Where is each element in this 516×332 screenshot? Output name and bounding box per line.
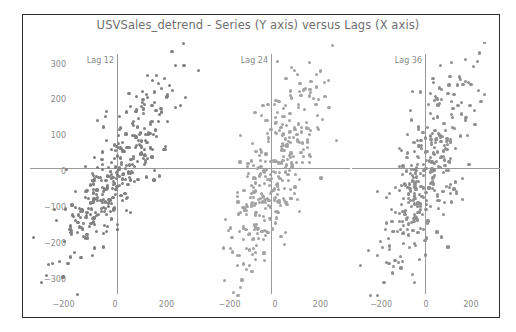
scatter-point [288, 169, 291, 172]
scatter-point [445, 148, 448, 151]
scatter-point [122, 172, 125, 175]
scatter-point [376, 254, 379, 257]
scatter-point [264, 160, 267, 163]
scatter-point [306, 146, 309, 149]
scatter-point [244, 228, 247, 231]
scatter-point [483, 42, 486, 44]
scatter-point [440, 235, 443, 238]
scatter-point [293, 185, 296, 188]
scatter-point [129, 211, 132, 214]
scatter-point [437, 207, 440, 210]
scatter-point [262, 238, 265, 241]
scatter-point [253, 111, 256, 114]
scatter-point [95, 230, 98, 233]
scatter-point [393, 259, 396, 262]
scatter-point [231, 250, 234, 253]
scatter-point [422, 163, 425, 166]
scatter-point [92, 182, 95, 185]
scatter-point [309, 91, 312, 94]
scatter-point [323, 95, 326, 98]
scatter-point [398, 212, 401, 215]
x-tick-label: −200 [370, 300, 392, 309]
scatter-point [97, 213, 100, 216]
scatter-point [391, 271, 394, 274]
scatter-point [388, 244, 391, 247]
scatter-point [106, 225, 109, 228]
scatter-point [40, 281, 43, 284]
scatter-point [323, 81, 326, 84]
scatter-point [297, 122, 300, 125]
scatter-point [455, 192, 458, 195]
scatter-point [288, 119, 291, 122]
scatter-point [254, 177, 257, 180]
scatter-point [385, 196, 388, 199]
scatter-point [84, 190, 87, 193]
x-tick-label: 200 [159, 300, 174, 309]
scatter-point [154, 109, 157, 112]
scatter-point [387, 237, 390, 240]
scatter-point [408, 246, 411, 249]
scatter-point [74, 190, 77, 193]
scatter-point [275, 216, 278, 219]
x-tick-label: 200 [463, 300, 478, 309]
scatter-point [69, 224, 72, 227]
scatter-point [410, 164, 413, 167]
scatter-point [116, 228, 119, 231]
scatter-point [118, 115, 121, 118]
scatter-point [413, 168, 416, 171]
scatter-point [359, 264, 362, 267]
scatter-point [292, 155, 295, 158]
scatter-point [267, 204, 270, 207]
scatter-point [158, 174, 161, 177]
scatter-point [80, 226, 83, 229]
scatter-point [422, 228, 425, 231]
scatter-point [274, 171, 277, 174]
scatter-point [402, 242, 405, 245]
scatter-point [232, 291, 235, 294]
scatter-point [449, 192, 452, 195]
scatter-point [58, 260, 61, 263]
scatter-points-lag-24 [200, 42, 350, 300]
scatter-point [76, 293, 79, 296]
scatter-point [157, 120, 160, 123]
x-axis-tick-labels: −2000200−2000200−2000200 [0, 300, 516, 320]
scatter-point [79, 210, 82, 213]
scatter-point [106, 174, 109, 177]
scatter-point [142, 112, 145, 115]
scatter-point [106, 187, 109, 190]
scatter-point [105, 110, 108, 113]
scatter-point [443, 158, 446, 161]
scatter-point [422, 186, 425, 189]
scatter-point [282, 132, 285, 135]
scatter-point [264, 207, 267, 210]
scatter-point [140, 139, 143, 142]
scatter-point [388, 262, 391, 265]
scatter-point [121, 199, 124, 202]
scatter-point [96, 196, 99, 199]
scatter-point [79, 256, 82, 259]
scatter-point [436, 150, 439, 153]
scatter-point [301, 141, 304, 144]
scatter-point [279, 235, 282, 238]
scatter-point [248, 248, 251, 251]
scatter-point [451, 107, 454, 110]
scatter-point [85, 211, 88, 214]
scatter-point [335, 139, 338, 142]
scatter-point [308, 161, 311, 164]
scatter-point [125, 209, 128, 212]
scatter-point [446, 245, 449, 248]
scatter-point [78, 207, 81, 210]
scatter-point [101, 168, 104, 171]
scatter-point [461, 83, 464, 86]
scatter-point [127, 92, 130, 95]
lag-panel-24: Lag 24 [200, 42, 350, 300]
scatter-point [459, 134, 462, 137]
scatter-point [246, 165, 249, 168]
scatter-point [397, 261, 400, 264]
scatter-point [267, 140, 270, 143]
scatter-point [74, 206, 77, 209]
scatter-point [269, 178, 272, 181]
scatter-point [257, 237, 260, 240]
scatter-point [248, 264, 251, 267]
scatter-point [426, 219, 429, 222]
